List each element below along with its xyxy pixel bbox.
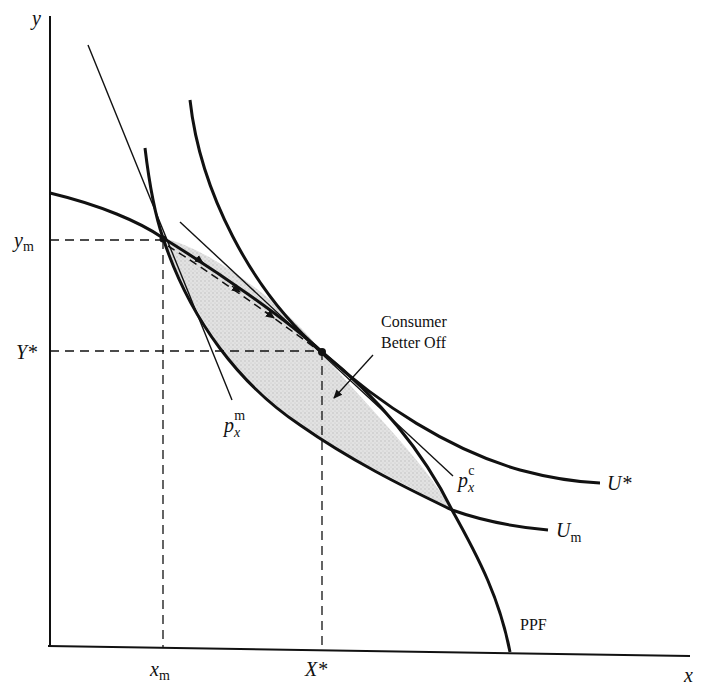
monopoly-point: [160, 236, 167, 243]
competitive-price-label: pxc: [456, 463, 475, 495]
guide-lines: [50, 240, 322, 651]
u-star-label: U*: [607, 472, 631, 494]
u-m-curve: [145, 148, 548, 530]
ppf-curve: [50, 193, 510, 652]
xm-label: xm: [149, 658, 170, 683]
annotation-line-1: Consumer: [381, 313, 447, 330]
y-axis-label: y: [30, 7, 41, 30]
monopoly-price-label: pxm: [222, 408, 245, 440]
x-axis-label: x: [683, 664, 693, 686]
xstar-label: X*: [304, 658, 327, 680]
consumer-gain-region: [163, 238, 452, 510]
u-m-label: Um: [556, 519, 581, 545]
ystar-label: Y*: [16, 341, 37, 363]
ym-label: ym: [12, 229, 34, 254]
axes: [48, 16, 690, 656]
ppf-label: PPF: [520, 616, 547, 633]
diagram-canvas: y x ym Y* xm X* PPF U* Um pxm pxc Consum…: [0, 0, 707, 692]
competitive-point: [318, 348, 326, 356]
monopoly-price-line: [88, 45, 232, 400]
annotation-line-2: Better Off: [381, 334, 447, 351]
x-axis: [48, 646, 690, 656]
